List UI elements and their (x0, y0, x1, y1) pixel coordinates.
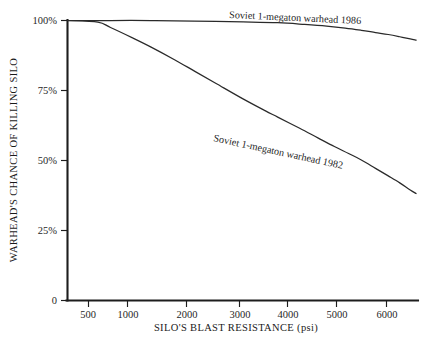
x-tick-label-1000: 1000 (118, 309, 139, 320)
x-tick-label-2000: 2000 (177, 309, 198, 320)
y-axis-title: WARHEAD'S CHANCE OF KILLING SILO (8, 58, 19, 262)
y-tick-label-0: 0 (52, 295, 57, 306)
y-tick-label-75: 75% (38, 85, 58, 96)
x-tick-label-4000: 4000 (278, 309, 299, 320)
line-chart-plot: WARHEAD'S CHANCE OF KILLING SILO SILO'S … (0, 0, 426, 342)
y-tick-label-100: 100% (33, 15, 58, 26)
series-label-1982: Soviet 1-megaton warhead 1982 (213, 132, 344, 171)
x-axis-title: SILO'S BLAST RESISTANCE (psi) (154, 322, 318, 334)
y-tick-label-50: 50% (38, 155, 58, 166)
series-line-1982 (68, 21, 417, 194)
x-tick-label-5000: 5000 (327, 309, 348, 320)
x-tick-label-3000: 3000 (230, 309, 251, 320)
x-tick-label-6000: 6000 (377, 309, 398, 320)
x-tick-label-500: 500 (80, 309, 96, 320)
x-axis-tick-labels: 500 1000 2000 3000 4000 5000 6000 (80, 309, 397, 320)
y-axis-ticks (61, 21, 67, 301)
series-line-1986 (68, 20, 417, 40)
y-axis-tick-labels: 100% 75% 50% 25% 0 (33, 15, 58, 306)
chart-figure: WARHEAD'S CHANCE OF KILLING SILO SILO'S … (0, 0, 426, 342)
y-tick-label-25: 25% (38, 225, 58, 236)
